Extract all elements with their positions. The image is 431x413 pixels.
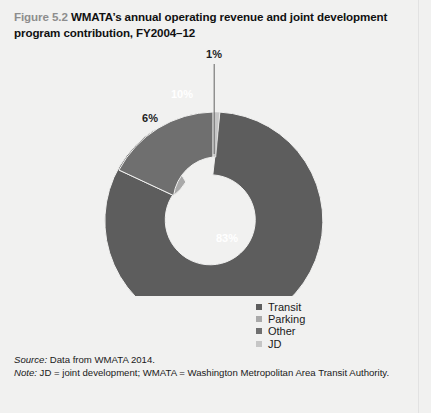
note-text: JD = joint development; WMATA = Washingt… [37, 367, 389, 378]
legend-label-jd: JD [268, 338, 281, 350]
note-label: Note: [14, 367, 37, 378]
slice-label-jd: 1% [206, 48, 222, 60]
figure-title: Figure 5.2 WMATA’s annual operating reve… [14, 9, 414, 40]
figure-footnotes: Source: Data from WMATA 2014. Note: JD =… [14, 354, 414, 379]
figure-title-text: WMATA’s annual operating revenue and joi… [14, 10, 387, 39]
legend-item-other[interactable]: Other [256, 325, 376, 337]
legend-item-parking[interactable]: Parking [256, 313, 376, 325]
figure-5-2: Figure 5.2 WMATA’s annual operating reve… [0, 0, 431, 413]
slice-label-other: 10% [171, 88, 193, 100]
legend-label-transit: Transit [268, 301, 301, 313]
legend-swatch-other [256, 328, 262, 334]
legend-label-parking: Parking [268, 313, 305, 325]
donut-chart: 1% 10% 6% 83% [0, 46, 431, 296]
legend-item-transit[interactable]: Transit [256, 301, 376, 313]
chart-legend: Transit Parking Other JD [256, 301, 376, 350]
figure-number: Figure 5.2 [14, 10, 68, 23]
legend-swatch-jd [256, 341, 262, 347]
slice-label-transit: 83% [216, 232, 238, 244]
legend-label-other: Other [268, 325, 296, 337]
source-line: Source: Data from WMATA 2014. [14, 354, 414, 367]
chart-area: 1% 10% 6% 83% [0, 46, 431, 296]
source-text: Data from WMATA 2014. [47, 354, 155, 365]
source-label: Source: [14, 354, 47, 365]
legend-swatch-parking [256, 316, 262, 322]
note-line: Note: JD = joint development; WMATA = Wa… [14, 367, 414, 380]
slice-label-parking: 6% [142, 112, 158, 124]
legend-swatch-transit [256, 304, 262, 310]
legend-item-jd[interactable]: JD [256, 338, 376, 350]
